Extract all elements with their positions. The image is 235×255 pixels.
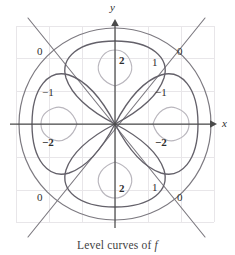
contour-label-0-top-left: 0 — [37, 46, 43, 57]
contour-label-0-bottom-left: 0 — [37, 192, 43, 203]
figure-caption: Level curves of f — [0, 239, 235, 251]
contour-label-minus1-right: −1 — [155, 87, 167, 98]
contour-label-minus2-left: −2 — [42, 137, 54, 148]
y-axis-arrowhead — [111, 19, 119, 26]
contour-label-0-bottom-right: 0 — [177, 192, 183, 203]
caption-function-symbol: f — [155, 239, 158, 251]
level-curves-figure: y x 0 0 0 0 1 1 2 2 −1 −1 −2 −2 Level cu… — [0, 0, 235, 255]
contour-label-0-top-right: 0 — [177, 46, 183, 57]
contour-label-1-top: 1 — [152, 57, 158, 68]
contour-label-minus2-right: −2 — [155, 137, 167, 148]
contour-label-2-top: 2 — [119, 55, 125, 66]
contour-label-minus1-left: −1 — [42, 87, 54, 98]
y-axis-label: y — [110, 2, 115, 13]
contour-plot — [0, 0, 235, 255]
caption-text: Level curves of — [77, 239, 155, 251]
contour-label-1-bottom: 1 — [152, 182, 158, 193]
x-axis-label: x — [222, 118, 227, 129]
contour-label-2-bottom: 2 — [119, 183, 125, 194]
